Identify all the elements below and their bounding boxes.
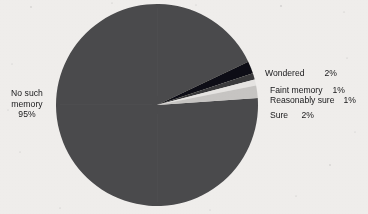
pie-label-wondered-percent: 2% <box>324 68 336 78</box>
pie-label-faint-memory: Faint memory 1% <box>270 85 345 95</box>
pie-label-percent: 95% <box>3 109 51 120</box>
chart-canvas: No such memory 95% Wondered 2% Faint mem… <box>0 0 368 214</box>
pie-label-wondered-text: Wondered <box>265 68 322 78</box>
pie-label-faint-memory-text: Faint memory <box>270 85 330 95</box>
pie-label-line-2: memory <box>3 99 51 110</box>
pie-label-wondered: Wondered 2% <box>265 68 337 78</box>
pie-label-no-such-memory: No such memory 95% <box>3 88 51 120</box>
pie-label-line-1: No such <box>3 88 51 99</box>
pie-chart <box>0 0 368 214</box>
pie-label-sure-percent: 2% <box>301 110 313 120</box>
pie-label-reasonably-sure-text: Reasonably sure <box>270 95 341 105</box>
pie-label-sure: Sure 2% <box>270 110 314 120</box>
pie-label-reasonably-sure-percent: 1% <box>343 95 355 105</box>
pie-slice-no-such-memory <box>56 4 258 206</box>
pie-label-sure-text: Sure <box>270 110 299 120</box>
pie-label-reasonably-sure: Reasonably sure 1% <box>270 95 356 105</box>
pie-label-faint-memory-percent: 1% <box>332 85 344 95</box>
